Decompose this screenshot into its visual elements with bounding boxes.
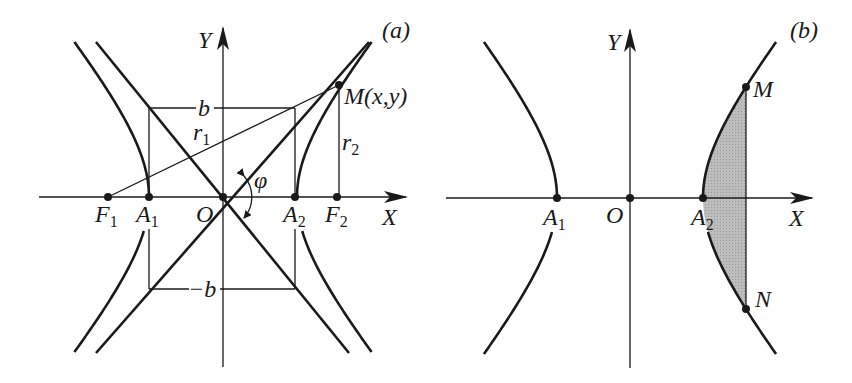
y-axis-label-a: Y bbox=[198, 27, 214, 53]
label-r2: r2 bbox=[342, 129, 359, 158]
label-M-b: M bbox=[752, 76, 775, 102]
label-A1-b: A1 bbox=[541, 204, 566, 233]
point-M-b bbox=[742, 83, 750, 91]
point-O bbox=[219, 193, 227, 201]
label-O-b: O bbox=[606, 202, 623, 228]
point-N-b bbox=[742, 305, 750, 313]
point-A1 bbox=[145, 193, 153, 201]
hyperbola-right-upper bbox=[297, 42, 372, 197]
point-F2 bbox=[333, 193, 341, 201]
point-M bbox=[335, 81, 343, 89]
label-phi: φ bbox=[254, 167, 267, 193]
x-axis-label-b: X bbox=[788, 205, 805, 231]
label-M-xy: M(x,y) bbox=[343, 83, 407, 109]
label-A2-a: A2 bbox=[281, 201, 306, 230]
y-axis-label-b: Y bbox=[607, 29, 623, 55]
hyperbola-left-lower-b bbox=[484, 232, 552, 354]
panel-label-a: (a) bbox=[382, 17, 410, 43]
label-b: b bbox=[198, 95, 210, 121]
label-A1-a: A1 bbox=[134, 201, 159, 230]
hyperbola-left-upper-b bbox=[484, 42, 557, 198]
label-O-a: O bbox=[196, 201, 213, 227]
panel-label-b: (b) bbox=[790, 17, 818, 43]
point-A1-b bbox=[553, 194, 561, 202]
point-A2-b bbox=[699, 194, 707, 202]
panel-a: (a) Y X O F1 A1 A2 F2 M(x,y) b −b r1 r2 … bbox=[39, 17, 410, 367]
x-axis-label-a: X bbox=[381, 204, 398, 230]
label-N-b: N bbox=[754, 286, 773, 312]
label-neg-b: −b bbox=[188, 276, 216, 302]
point-A2 bbox=[291, 193, 299, 201]
hyperbola-right-lower bbox=[302, 231, 371, 352]
point-O-b bbox=[626, 194, 634, 202]
hyperbola-left-lower bbox=[74, 231, 143, 352]
panel-b: (b) Y X O A1 A2 M N bbox=[446, 17, 818, 368]
point-F1 bbox=[104, 193, 112, 201]
hyperbola-left-upper bbox=[74, 42, 149, 197]
label-F2: F2 bbox=[324, 201, 348, 230]
label-F1: F1 bbox=[94, 201, 118, 230]
label-r1: r1 bbox=[193, 119, 210, 148]
hyperbola-diagram: (a) Y X O F1 A1 A2 F2 M(x,y) b −b r1 r2 … bbox=[0, 0, 852, 383]
